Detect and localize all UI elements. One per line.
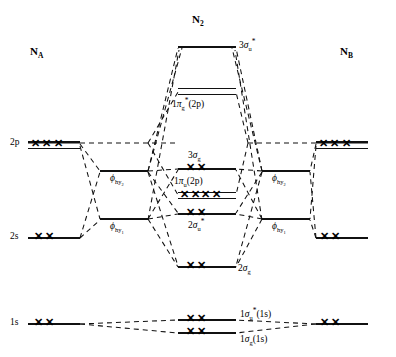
electrons-left-1s: ✕✕ <box>34 317 57 328</box>
hybrid-level-left-hy1 <box>100 218 148 220</box>
mo-label-2sigma-u-star: 2σu* <box>188 218 204 233</box>
electrons-left-2p: ✕✕✕ <box>31 138 65 149</box>
mo-diagram: NA NB N2 2p ✕✕✕ 2s ✕✕ 1s ✕✕ ✕✕✕ ✕✕ ✕✕ ϕh… <box>0 0 396 357</box>
electrons-1sigma-u-star-1s: ✕✕ <box>186 313 209 324</box>
mo-label-1sigma-g-1s: 1σg(1s) <box>240 335 267 346</box>
electrons-2sigma-u-star: ✕✕ <box>186 207 209 218</box>
electrons-right-1s: ✕✕ <box>320 317 343 328</box>
ao-label-left-1s: 1s <box>10 318 18 328</box>
atom-label-right: NB <box>340 46 353 60</box>
mo-label-1pi-g-star-2p: 1πg*(2p) <box>172 97 204 112</box>
electrons-3sigma-g: ✕✕ <box>186 162 209 173</box>
hybrid-label-right-hy1: ϕhy1 <box>272 222 286 236</box>
electrons-right-2s: ✕✕ <box>320 231 343 242</box>
hybrid-label-left-hy2: ϕhy2 <box>110 174 124 188</box>
hybrid-level-right-hy2 <box>262 170 310 172</box>
electrons-1pi-u-2p: ✕✕✕✕ <box>180 189 222 200</box>
electrons-right-2p: ✕✕✕ <box>319 138 353 149</box>
electrons-left-2s: ✕✕ <box>34 231 57 242</box>
ao-label-left-2s: 2s <box>10 232 18 242</box>
hybrid-level-right-hy1 <box>262 218 310 220</box>
hybrid-label-left-hy1: ϕhy1 <box>110 222 124 236</box>
mo-label-2sigma-g: 2σg <box>238 264 251 275</box>
electrons-1sigma-g-1s: ✕✕ <box>186 326 209 337</box>
mo-label-3sigma-u-star: 3σu* <box>239 38 255 53</box>
mo-label-1pi-u-2p: 1πu(2p) <box>174 177 203 188</box>
electrons-2sigma-g: ✕✕ <box>186 260 209 271</box>
atom-label-left: NA <box>30 46 43 60</box>
hybrid-label-right-hy2: ϕhy2 <box>272 174 286 188</box>
molecule-label: N2 <box>192 14 204 28</box>
mo-level-1pi-g-star-2p <box>178 88 236 95</box>
mo-label-1sigma-u-star-1s: 1σu*(1s) <box>240 307 271 322</box>
mo-level-3sigma-u-star <box>178 46 236 48</box>
ao-label-left-2p: 2p <box>10 138 20 148</box>
hybrid-level-left-hy2 <box>100 170 148 172</box>
